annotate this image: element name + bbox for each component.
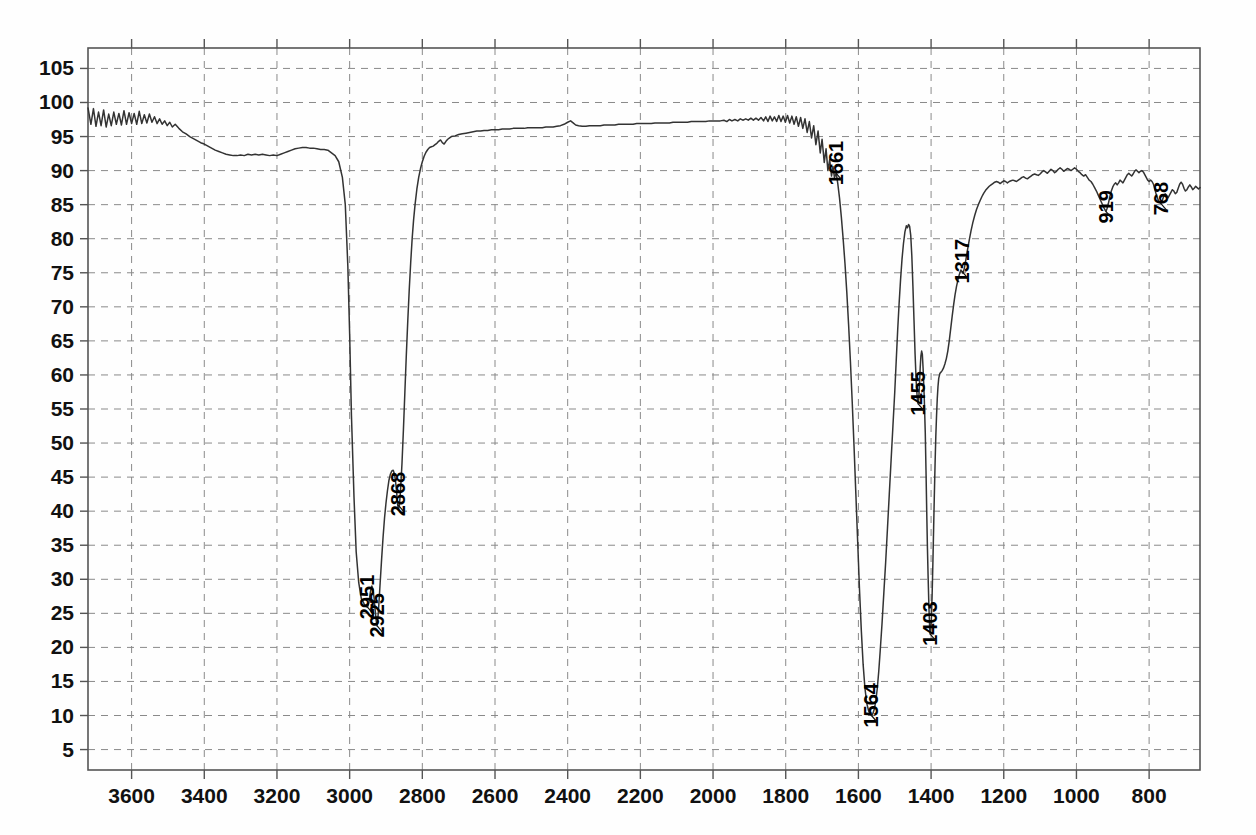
- y-tick-label: 55: [51, 397, 75, 420]
- x-tick-label: 2400: [544, 784, 591, 807]
- spectrum-chart: 5101520253035404550556065707580859095100…: [0, 0, 1256, 835]
- x-tick-label: 3000: [326, 784, 373, 807]
- peak-label: 2868: [387, 472, 409, 517]
- peak-label: 1455: [907, 371, 929, 416]
- y-tick-label: 65: [51, 329, 75, 352]
- x-tick-label: 3200: [254, 784, 301, 807]
- y-tick-label: 90: [51, 159, 74, 182]
- y-tick-label: 85: [51, 193, 75, 216]
- peak-label: 1317: [951, 239, 973, 284]
- y-tick-label: 50: [51, 431, 74, 454]
- peak-label: 1564: [860, 682, 882, 727]
- peak-label: 1661: [825, 141, 847, 186]
- x-tick-label: 2800: [399, 784, 446, 807]
- y-tick-label: 100: [39, 90, 74, 113]
- y-tick-label: 35: [51, 533, 75, 556]
- x-tick-label: 3600: [108, 784, 155, 807]
- y-tick-label: 20: [51, 635, 74, 658]
- y-tick-label: 75: [51, 261, 75, 284]
- x-tick-label: 1800: [762, 784, 809, 807]
- peak-label: 2925: [366, 593, 388, 638]
- x-tick-label: 2200: [617, 784, 664, 807]
- x-tick-label: 2000: [690, 784, 737, 807]
- x-tick-label: 3400: [181, 784, 228, 807]
- peak-label: 919: [1095, 190, 1117, 223]
- y-tick-label: 5: [62, 738, 74, 761]
- x-tick-label: 1400: [908, 784, 955, 807]
- y-tick-label: 40: [51, 499, 74, 522]
- x-tick-label: 1200: [980, 784, 1027, 807]
- y-tick-label: 70: [51, 295, 74, 318]
- chart-background: [0, 0, 1256, 835]
- x-tick-label: 2600: [472, 784, 519, 807]
- x-tick-label: 1000: [1053, 784, 1100, 807]
- y-tick-label: 80: [51, 227, 74, 250]
- y-tick-label: 105: [39, 56, 74, 79]
- peak-label: 768: [1150, 182, 1172, 215]
- peak-label: 1403: [919, 601, 941, 646]
- y-tick-label: 15: [51, 669, 75, 692]
- y-tick-label: 10: [51, 704, 74, 727]
- y-tick-label: 30: [51, 567, 74, 590]
- y-tick-label: 45: [51, 465, 75, 488]
- spectrum-svg: 5101520253035404550556065707580859095100…: [0, 0, 1256, 835]
- x-tick-label: 1600: [835, 784, 882, 807]
- y-tick-label: 60: [51, 363, 74, 386]
- y-tick-label: 95: [51, 125, 75, 148]
- y-tick-label: 25: [51, 601, 75, 624]
- x-tick-label: 800: [1132, 784, 1167, 807]
- ir-spectrum-page: 5101520253035404550556065707580859095100…: [0, 0, 1256, 835]
